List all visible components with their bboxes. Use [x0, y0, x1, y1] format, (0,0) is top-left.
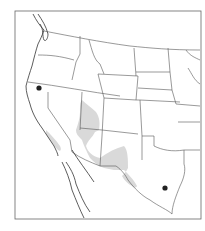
- point-marker-northern-california: [36, 85, 41, 90]
- point-marker-texas: [162, 185, 167, 190]
- map-frame: [15, 11, 201, 219]
- range-map: [0, 0, 205, 231]
